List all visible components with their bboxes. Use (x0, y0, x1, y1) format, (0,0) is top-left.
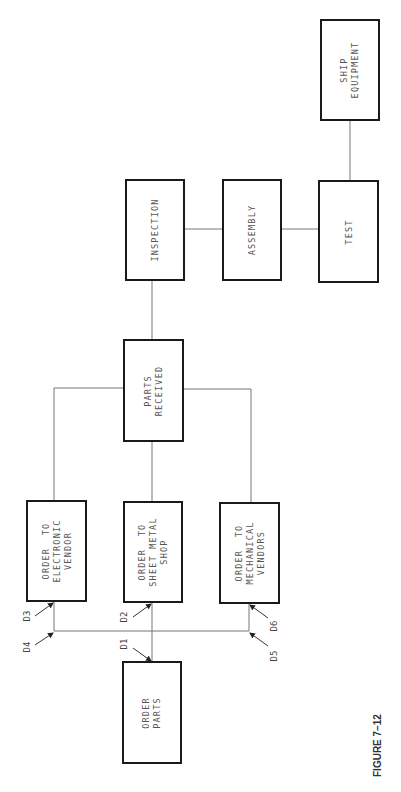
arrow-d6 (250, 605, 268, 618)
box-order-electronic-label: ORDER TO ELECTRONIC VENDOR (40, 519, 73, 582)
box-order-parts: ORDER PARTS (122, 661, 182, 764)
label-d2: D2 (119, 612, 129, 623)
arrow-d2 (133, 604, 151, 617)
box-ship-equipment: SHIP EQUIPMENT (320, 19, 380, 121)
label-d1: D1 (119, 639, 129, 650)
box-order-parts-label: ORDER PARTS (141, 697, 163, 729)
box-parts-received: PARTS RECEIVED (123, 339, 184, 442)
box-order-mechanical: ORDER TO MECHANICAL VENDORS (219, 502, 280, 604)
box-inspection: INSPECTION (125, 179, 185, 281)
flowchart-canvas: SHIP EQUIPMENT INSPECTION ASSEMBLY TEST … (0, 0, 401, 792)
box-ship-equipment-label: SHIP EQUIPMENT (339, 42, 361, 99)
box-order-sheet-metal: ORDER TO SHEET METAL SHOP (123, 501, 183, 603)
label-d6: D6 (269, 621, 279, 632)
arrow-d1 (133, 648, 151, 661)
box-test-label: TEST (343, 219, 354, 244)
box-assembly: ASSEMBLY (222, 179, 282, 281)
box-test: TEST (318, 180, 379, 283)
label-d5: D5 (269, 651, 279, 662)
arrow-d4 (35, 633, 53, 645)
label-d3: D3 (22, 611, 32, 622)
figure-caption: FIGURE 7–12 (372, 717, 386, 777)
box-order-mechanical-label: ORDER TO MECHANICAL VENDORS (233, 521, 266, 584)
arrow-d5 (250, 633, 268, 646)
box-parts-received-label: PARTS RECEIVED (143, 365, 165, 416)
box-order-electronic: ORDER TO ELECTRONIC VENDOR (26, 500, 87, 602)
box-order-sheet-metal-label: ORDER TO SHEET METAL SHOP (137, 517, 170, 587)
label-d4: D4 (22, 642, 32, 653)
box-inspection-label: INSPECTION (150, 198, 161, 261)
box-assembly-label: ASSEMBLY (247, 205, 258, 256)
arrow-d3 (35, 603, 53, 616)
